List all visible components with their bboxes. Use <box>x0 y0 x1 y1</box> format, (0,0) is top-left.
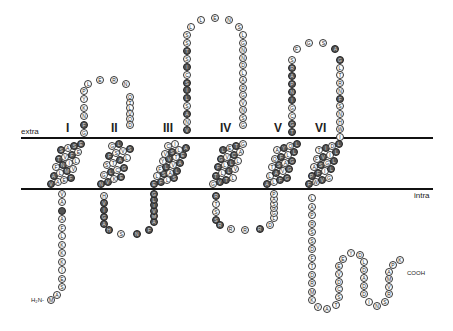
helix-label-iii: III <box>163 121 173 135</box>
residue: L <box>308 194 316 202</box>
residue: V <box>183 126 191 134</box>
residue: L <box>229 174 237 182</box>
residue: S <box>183 55 191 63</box>
residue: A <box>323 305 331 313</box>
residue: D <box>360 290 368 298</box>
helix-label-i: I <box>66 121 69 135</box>
residue: S <box>183 31 191 39</box>
residue: T <box>183 47 191 55</box>
residue: D <box>266 221 274 229</box>
extra-label: extra <box>21 127 39 136</box>
residue: E <box>77 140 85 148</box>
residue: G <box>120 164 128 172</box>
residue: S <box>235 23 243 31</box>
residue: A <box>308 203 316 211</box>
residue: A <box>182 144 190 152</box>
residue: L <box>335 140 343 148</box>
residue: L <box>360 258 368 266</box>
residue: I <box>365 298 373 306</box>
residue: I <box>183 63 191 71</box>
residue: M <box>385 275 393 283</box>
helix-label-ii: II <box>111 121 118 135</box>
residue: D <box>308 271 316 279</box>
residue: D <box>335 278 343 286</box>
residue: G <box>150 190 158 198</box>
residue: E <box>58 275 66 283</box>
residue: L <box>115 140 123 148</box>
residue: A <box>385 268 393 276</box>
residue: R <box>110 76 118 84</box>
residue: S <box>126 145 134 153</box>
helix-label-iv: IV <box>220 121 231 135</box>
residue: N <box>225 16 233 24</box>
residue: D <box>308 245 316 253</box>
residue: L <box>239 31 247 39</box>
residue: R <box>308 279 316 287</box>
residue: F <box>293 45 301 53</box>
residue: S <box>288 56 296 64</box>
residue: I <box>183 86 191 94</box>
residue: L <box>293 140 301 148</box>
residue: T <box>288 128 296 136</box>
residue: E <box>211 14 219 22</box>
residue: N <box>239 106 247 114</box>
residue: C <box>335 285 343 293</box>
residue: D <box>360 266 368 274</box>
residue: R <box>288 64 296 72</box>
residue: N <box>336 110 344 118</box>
residue: F <box>58 224 66 232</box>
residue: L <box>123 154 131 162</box>
residue: R <box>241 226 249 234</box>
residue: S <box>183 79 191 87</box>
residue: G <box>80 129 88 137</box>
residue: D <box>239 61 247 69</box>
residue: G <box>325 174 333 182</box>
residue: A <box>58 198 66 206</box>
residue: S <box>319 39 327 47</box>
residue: P <box>80 87 88 95</box>
residue: N <box>183 118 191 126</box>
residue: R <box>216 221 224 229</box>
residue: A <box>239 76 247 84</box>
residue: E <box>335 262 343 270</box>
residue: G <box>336 56 344 64</box>
residue: N <box>288 88 296 96</box>
residue: V <box>58 190 66 198</box>
residue: M <box>308 288 316 296</box>
residue: A <box>360 274 368 282</box>
residue: S <box>212 208 220 216</box>
residue: V <box>385 283 393 291</box>
residue: K <box>58 258 66 266</box>
residue: R <box>385 290 393 298</box>
residue: N <box>133 230 141 238</box>
residue: R <box>336 79 344 87</box>
residue: S <box>308 237 316 245</box>
residue: S <box>117 230 125 238</box>
residue: L <box>183 94 191 102</box>
residue: N <box>239 46 247 54</box>
residue <box>58 207 66 215</box>
residue: A <box>58 215 66 223</box>
residue: S <box>381 298 389 306</box>
residue: I <box>288 96 296 104</box>
residue: Y <box>347 249 355 257</box>
residue: K <box>396 256 404 264</box>
residue: R <box>308 220 316 228</box>
residue: E <box>117 173 125 181</box>
helix-label-v: V <box>274 121 282 135</box>
residue: G <box>288 120 296 128</box>
residue: G <box>288 104 296 112</box>
residue: S <box>335 293 343 301</box>
residue: G <box>239 140 247 148</box>
residue: V <box>314 303 322 311</box>
residue: A <box>53 291 61 299</box>
residue: F <box>145 226 153 234</box>
residue: A <box>288 72 296 80</box>
extracellular-membrane-boundary <box>21 137 433 139</box>
residue: F <box>308 254 316 262</box>
residue: R <box>212 192 220 200</box>
residue: V <box>335 270 343 278</box>
residue: D <box>126 121 134 129</box>
residue: L <box>84 80 92 88</box>
residue: Y <box>80 95 88 103</box>
